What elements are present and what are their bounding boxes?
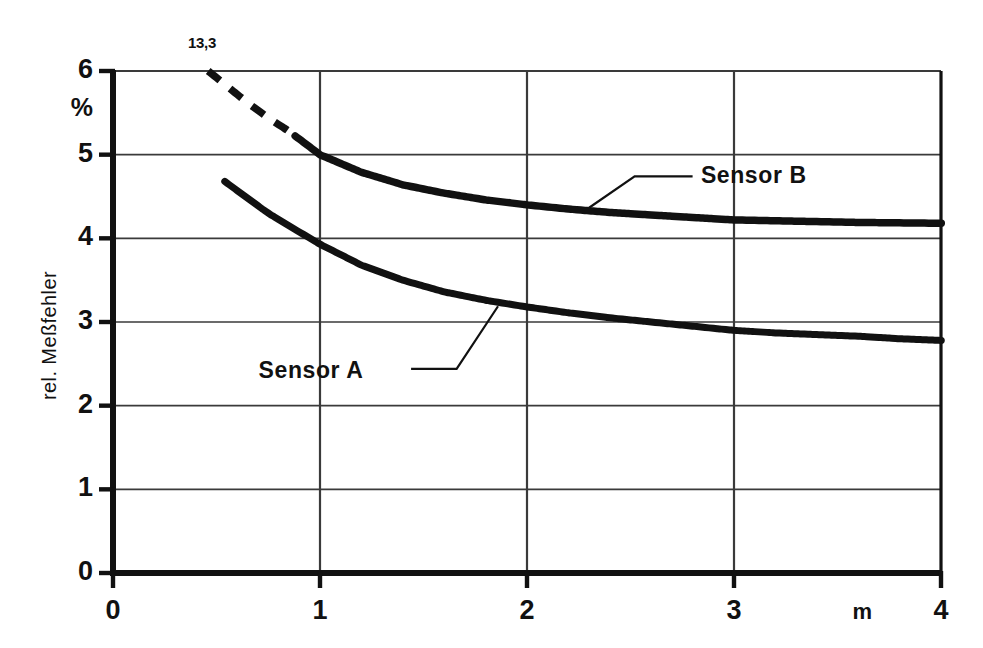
x-tick-label: 2 bbox=[507, 595, 547, 626]
y-tick-label: 4 bbox=[57, 221, 93, 252]
data-series-curves bbox=[208, 71, 941, 340]
x-tick-label: 0 bbox=[93, 595, 133, 626]
series-1-solid-curve bbox=[225, 181, 942, 340]
x-axis-unit-label: m bbox=[842, 599, 882, 625]
x-tick-label: 1 bbox=[300, 595, 340, 626]
peak-value-annotation: 13,3 bbox=[188, 34, 216, 51]
y-tick-label: 5 bbox=[57, 138, 93, 169]
y-tick-label: 3 bbox=[57, 305, 93, 336]
series-0-solid-curve bbox=[295, 136, 941, 223]
series-label-sensor-a: Sensor A bbox=[259, 357, 364, 384]
y-tick-label: 2 bbox=[57, 389, 93, 420]
x-tick-label: 3 bbox=[714, 595, 754, 626]
chart-container: rel. Meßfehler 0123456 01234 % m 13,3 Se… bbox=[0, 0, 983, 648]
axis-tick-marks bbox=[99, 71, 941, 588]
series-label-sensor-b: Sensor B bbox=[701, 162, 807, 189]
leader-line-sensor-b bbox=[589, 176, 693, 207]
y-tick-label: 6 bbox=[57, 54, 93, 85]
y-axis-unit-label: % bbox=[57, 93, 93, 122]
x-tick-label: 4 bbox=[921, 595, 961, 626]
leader-line-sensor-a bbox=[411, 306, 498, 369]
y-tick-label: 0 bbox=[57, 556, 93, 587]
chart-plot-area bbox=[0, 0, 983, 648]
series-0-dashed-segment bbox=[208, 71, 295, 136]
y-tick-label: 1 bbox=[57, 472, 93, 503]
